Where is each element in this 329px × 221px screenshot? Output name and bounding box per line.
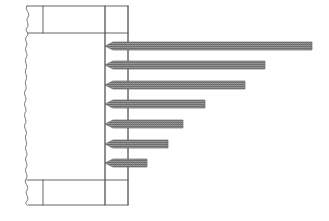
arrow-bar-1-vtexture [113,42,312,50]
arrow-bar-4 [105,100,205,108]
arrow-bar-3 [105,81,245,89]
arrow-bar-3-vtexture [113,81,245,89]
arrow-bar-6 [105,140,168,148]
figure-canvas [0,0,329,221]
technical-drawing-figure [0,0,329,221]
arrow-bar-2-vtexture [113,61,265,69]
arrow-bar-5-vtexture [113,120,183,128]
arrow-bar-4-vtexture [113,100,205,108]
arrow-bar-2 [105,61,265,69]
arrow-bar-1 [105,42,312,50]
arrow-bar-7 [105,159,147,167]
arrow-bar-5 [105,120,183,128]
arrow-bar-7-vtexture [113,159,147,167]
arrow-bar-6-vtexture [113,140,168,148]
